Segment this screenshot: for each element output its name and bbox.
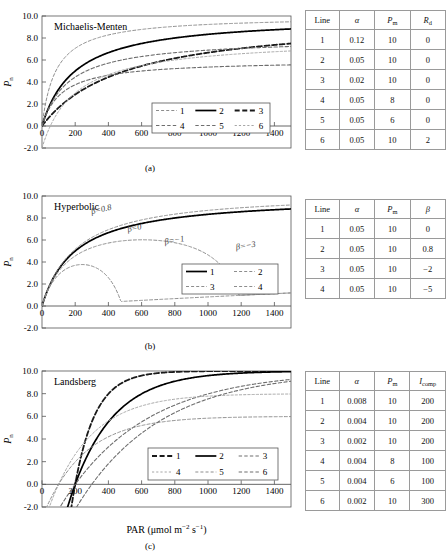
legend-box	[182, 264, 278, 294]
xtick-label: 0	[40, 128, 45, 138]
parameter-table-c: LineαPmIcomp10.0081020020.0041020030.002…	[305, 371, 446, 511]
table-header-cell: Line	[306, 372, 340, 391]
table-cell: 0	[410, 30, 445, 50]
table-header-cell: Rd	[410, 11, 445, 30]
chart-c: -2.00.02.04.06.08.010.002004006008001000…	[0, 363, 300, 541]
table-cell: 0	[410, 50, 445, 70]
parameter-table-b: LineαPmβ10.0510020.05100.830.0510−240.05…	[305, 199, 446, 299]
figure-root: -2.00.02.04.06.08.010.002004006008001000…	[0, 0, 446, 560]
table-header-cell: β	[410, 200, 445, 219]
ytick-label: 4.0	[27, 257, 39, 267]
ytick-label: 8.0	[27, 213, 39, 223]
xtick-label: 0	[40, 308, 45, 318]
table-row: 10.12100	[306, 30, 446, 50]
ytick-label: 6.0	[27, 411, 39, 421]
table-cell: 0.02	[339, 70, 375, 90]
table-header-cell: Pm	[375, 200, 410, 219]
ytick-label: 0.0	[27, 121, 39, 131]
ytick-label: 0.0	[27, 479, 39, 489]
ytick-label: -2.0	[24, 143, 39, 153]
parameter-table-a: LineαPmRd10.1210020.0510030.0210040.0580…	[305, 10, 446, 150]
table-header-cell: α	[339, 200, 375, 219]
table-cell: 3	[306, 70, 340, 90]
table-cell: 10	[375, 70, 410, 90]
table-header-row: LineαPmIcomp	[306, 372, 446, 391]
table-cell: 2	[410, 130, 445, 150]
legend-label: 1	[180, 106, 185, 116]
table-cell: 0.8	[410, 239, 445, 259]
legend-label: 3	[210, 282, 215, 292]
ytick-label: -2.0	[24, 323, 39, 333]
table-row: 20.05100.8	[306, 239, 446, 259]
legend-box	[152, 103, 270, 133]
table-cell: 10	[375, 279, 410, 299]
ytick-label: 4.0	[27, 77, 39, 87]
xtick-label: 800	[168, 308, 182, 318]
table-cell: 200	[410, 431, 446, 451]
table-cell: 3	[306, 431, 340, 451]
table-cell: 0.008	[339, 391, 375, 411]
table-cell: 10	[375, 431, 410, 451]
caption-b: (b)	[0, 341, 300, 351]
table-row: 40.0048100	[306, 451, 446, 471]
panel-michaelis-menten: -2.00.02.04.06.08.010.002004006008001000…	[0, 2, 300, 164]
ytick-label: 6.0	[27, 235, 39, 245]
plot-c: -2.00.02.04.06.08.010.002004006008001000…	[0, 363, 300, 541]
xtick-label: 600	[135, 308, 149, 318]
table-cell: 8	[375, 451, 410, 471]
xtick-label: 1200	[232, 486, 251, 496]
panel-title: Landsberg	[54, 376, 96, 387]
table-cell: 300	[410, 491, 446, 511]
legend-box	[148, 448, 278, 480]
table-header-cell: Icomp	[410, 372, 446, 391]
table-row: 60.05102	[306, 130, 446, 150]
xtick-label: 600	[135, 128, 149, 138]
xtick-label: 200	[68, 128, 82, 138]
table-cell: 10	[375, 130, 410, 150]
table-cell: 10	[375, 239, 410, 259]
table-cell: 10	[375, 391, 410, 411]
legend-label: 4	[176, 467, 181, 477]
xtick-label: 200	[68, 308, 82, 318]
table-cell: 6	[306, 130, 340, 150]
table-cell: 0.05	[339, 219, 375, 239]
chart-a: -2.00.02.04.06.08.010.002004006008001000…	[0, 2, 300, 164]
legend-label: 6	[259, 121, 264, 131]
table-cell: 0.05	[339, 110, 375, 130]
table-cell: 5	[306, 471, 340, 491]
ytick-label: 10.0	[22, 191, 38, 201]
ytick-label: 8.0	[27, 389, 39, 399]
table-row: 50.0046100	[306, 471, 446, 491]
table-row: 30.00210200	[306, 431, 446, 451]
table-row: 60.00210300	[306, 491, 446, 511]
table-row: 10.05100	[306, 219, 446, 239]
parameter-table: LineαPmβ10.0510020.05100.830.0510−240.05…	[305, 199, 446, 299]
table-row: 10.00810200	[306, 391, 446, 411]
table-cell: 1	[306, 219, 340, 239]
table-header-cell: Pm	[375, 11, 410, 30]
table-cell: 0.004	[339, 471, 375, 491]
table-cell: 10	[375, 411, 410, 431]
legend-label: 3	[259, 106, 264, 116]
legend-label: 1	[210, 267, 215, 277]
table-cell: 1	[306, 391, 340, 411]
ytick-label: 4.0	[27, 434, 39, 444]
xtick-label: 1200	[232, 308, 251, 318]
plot-a: -2.00.02.04.06.08.010.002004006008001000…	[0, 2, 300, 164]
ytick-label: 2.0	[27, 99, 39, 109]
xtick-label: 1400	[265, 308, 284, 318]
y-axis-label: Pn	[2, 77, 15, 88]
table-cell: 6	[375, 110, 410, 130]
table-cell: 0.002	[339, 431, 375, 451]
table-header-cell: α	[339, 11, 375, 30]
ytick-label: -2.0	[24, 502, 39, 512]
table-cell: 0.12	[339, 30, 375, 50]
table-header-cell: Line	[306, 11, 340, 30]
y-axis-label: Pn	[2, 434, 15, 445]
table-cell: 4	[306, 279, 340, 299]
legend-label: 5	[219, 467, 224, 477]
xtick-label: 1000	[199, 308, 218, 318]
ytick-label: 10.0	[22, 366, 38, 376]
caption-c: (c)	[0, 541, 300, 551]
plot-b: -2.00.02.04.06.08.010.002004006008001000…	[0, 186, 300, 342]
